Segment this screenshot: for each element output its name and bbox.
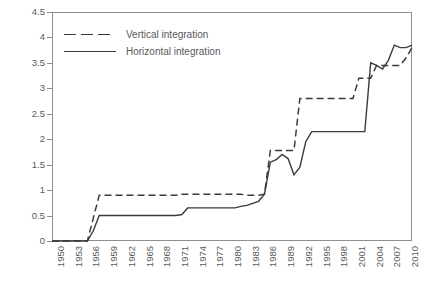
chart-container: 00.511.522.533.544.5 1950195319561959196… [0,0,429,306]
legend-item-label: Vertical integration [126,29,208,40]
solid-line-icon [62,47,118,57]
chart-legend: Vertical integrationHorizontal integrati… [62,26,221,60]
series-line-horizontal-integration [52,45,412,241]
legend-item: Horizontal integration [62,43,221,60]
dashed-line-icon [62,30,118,40]
series-line-vertical-integration [52,48,412,241]
legend-item-label: Horizontal integration [126,46,221,57]
legend-item: Vertical integration [62,26,221,43]
